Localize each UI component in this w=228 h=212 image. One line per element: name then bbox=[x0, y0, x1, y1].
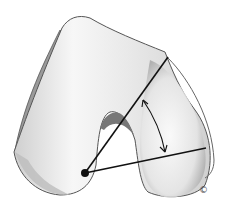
lateral-condyle bbox=[140, 60, 206, 198]
pivot-point bbox=[81, 169, 89, 177]
copyright-mark: © bbox=[199, 186, 208, 195]
femur-illustration: © bbox=[0, 0, 228, 212]
